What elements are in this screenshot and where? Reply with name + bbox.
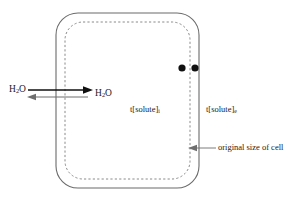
- outer-cell-outline: [56, 13, 199, 188]
- solute-label-extracellular: t[solute]e: [206, 104, 237, 115]
- original-size-callout-arrow: [188, 145, 216, 151]
- solute-label-intracellular: t[solute]i: [130, 104, 160, 115]
- inner-cell-outline: [65, 22, 190, 179]
- original-size-annotation: original size of cell: [218, 142, 284, 152]
- marker-dot-outer-membrane: [191, 64, 198, 71]
- water-in-arrow: [27, 94, 88, 100]
- diagram-canvas: [0, 0, 287, 204]
- water-out-arrow: [28, 86, 93, 94]
- water-label-inside: H2O: [95, 88, 112, 99]
- osmosis-cell-diagram: H2O H2O t[solute]i t[solute]e original s…: [0, 0, 287, 204]
- marker-dot-inner-membrane: [178, 64, 185, 71]
- water-label-outside: H2O: [9, 84, 26, 95]
